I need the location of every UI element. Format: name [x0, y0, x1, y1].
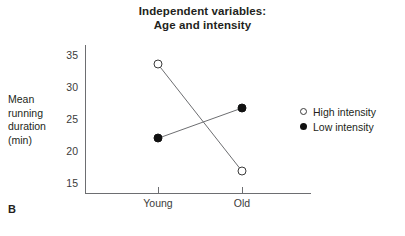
- legend-item: Low intensity: [300, 119, 405, 134]
- series-line: [158, 64, 242, 171]
- filled-circle-icon: [300, 123, 307, 130]
- series-line: [158, 108, 242, 138]
- data-point: [154, 60, 163, 69]
- legend-item: High intensity: [300, 104, 405, 119]
- legend-label: Low intensity: [313, 121, 374, 133]
- panel-label: B: [8, 203, 16, 215]
- legend: High intensityLow intensity: [300, 104, 405, 134]
- open-circle-icon: [300, 108, 307, 115]
- figure-panel: Independent variables: Age and intensity…: [0, 0, 405, 236]
- legend-label: High intensity: [313, 106, 376, 118]
- data-point: [238, 104, 247, 113]
- data-point: [154, 134, 163, 143]
- data-point: [238, 167, 247, 176]
